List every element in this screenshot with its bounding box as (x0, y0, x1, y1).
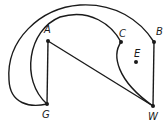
edge-A-G (47, 41, 48, 104)
graph-svg: A B C E G W (0, 0, 165, 122)
vertex-C (119, 40, 123, 44)
label-B: B (156, 26, 163, 37)
label-W: W (148, 111, 159, 122)
vertex-W (151, 104, 155, 108)
edge-G-B (9, 5, 154, 106)
vertex-B (152, 40, 156, 44)
edge-B-W (153, 42, 154, 106)
label-G: G (42, 109, 50, 120)
vertex-A (46, 39, 50, 43)
label-C: C (119, 28, 126, 39)
graph-diagram: A B C E G W (0, 0, 165, 122)
vertex-E (134, 60, 138, 64)
label-E: E (134, 48, 141, 59)
label-A: A (43, 24, 51, 35)
vertex-G (45, 102, 49, 106)
